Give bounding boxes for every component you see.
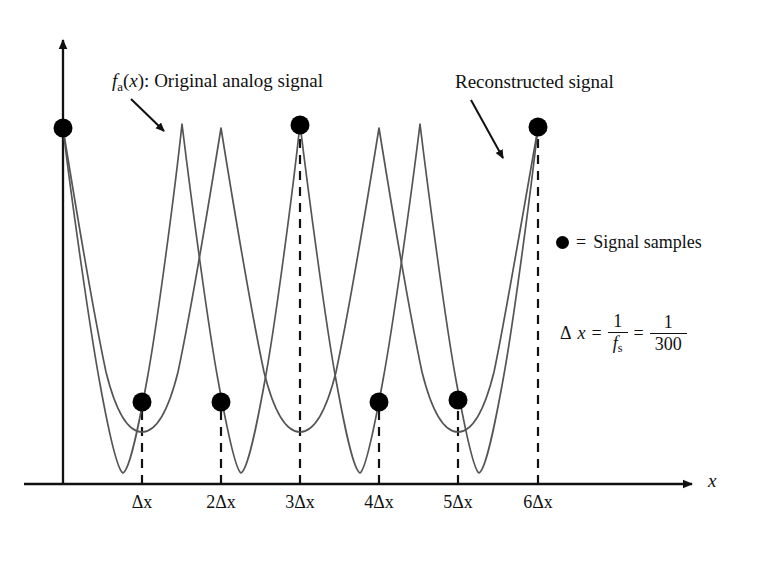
fraction-denominator: fs (608, 332, 628, 355)
legend: = Signal samples (556, 232, 702, 253)
original-analog-signal-label: fa(x): Original analog signal (112, 70, 323, 95)
equation-first-equals: = (592, 323, 602, 344)
fs-subscript: s (618, 341, 623, 355)
fraction-numerator: 1 (608, 312, 627, 332)
annotation-arrows (131, 99, 503, 158)
delta-symbol: Δ (560, 323, 572, 344)
x-tick-label-2: 2Δx (206, 492, 236, 513)
analog-label-tail: ): Original analog signal (138, 70, 323, 91)
x-tick-label-5: 5Δx (443, 492, 473, 513)
analog-x-variable: x (129, 70, 137, 91)
sample-drop-lines (142, 128, 538, 484)
sample-dot-6dx (529, 118, 548, 137)
legend-equals-sign: = (576, 232, 586, 253)
fraction-one-over-fs: 1 fs (608, 312, 628, 355)
equation-second-equals: = (634, 323, 644, 344)
axis-group (24, 40, 692, 484)
delta-x-equation: Δx = 1 fs = 1 300 (560, 312, 687, 355)
reconstructed-annotation-arrow (471, 100, 503, 158)
x-tick-label-3: 3Δx (285, 492, 315, 513)
fraction-denominator-2: 300 (650, 333, 687, 354)
sample-dot-1dx (133, 393, 152, 412)
x-axis-label: x (708, 470, 716, 492)
fraction-one-over-300: 1 300 (650, 313, 687, 354)
sample-dot-5dx (449, 391, 468, 410)
signal-sampling-figure: fa(x): Original analog signal Reconstruc… (0, 0, 759, 561)
signal-sample-dot-icon (556, 236, 569, 249)
sample-dot-0 (54, 119, 73, 138)
legend-label: Signal samples (593, 232, 702, 253)
reconstructed-signal-label: Reconstructed signal (455, 71, 614, 93)
fraction-numerator-2: 1 (659, 313, 678, 333)
analog-annotation-arrow (131, 99, 164, 131)
x-tick-label-6: 6Δx (523, 492, 553, 513)
sample-dot-3dx (291, 116, 310, 135)
x-tick-label-4: 4Δx (364, 492, 394, 513)
x-tick-label-1: Δx (132, 492, 153, 513)
equation-x-variable: x (578, 323, 586, 344)
sample-dot-4dx (370, 393, 389, 412)
sample-dot-2dx (212, 393, 231, 412)
